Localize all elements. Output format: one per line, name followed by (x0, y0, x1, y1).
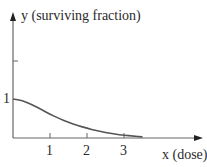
y-axis-label: y (surviving fraction) (21, 9, 141, 23)
y-axis-arrow-icon (10, 12, 16, 21)
survival-curve (13, 99, 143, 137)
x-tick-label-3: 3 (120, 144, 127, 158)
x-tick-label-1: 1 (46, 144, 53, 158)
x-axis-label: x (dose) (162, 148, 207, 162)
x-axis-arrow-icon (194, 135, 203, 141)
chart-canvas (0, 0, 207, 167)
x-tick-label-2: 2 (83, 144, 90, 158)
y-tick-label-1: 1 (3, 92, 10, 106)
